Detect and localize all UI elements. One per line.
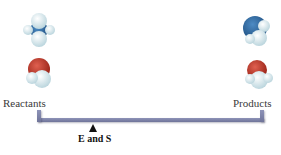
reactants-label: Reactants [3,97,46,109]
product-hydroxide-molecule-icon [242,58,274,92]
lever-bar [37,118,264,122]
reactant-water-molecule-icon [24,56,56,90]
enzyme-substrate-label: E and S [78,133,111,144]
product-ammonia-molecule-icon [240,14,274,48]
lever-left-post [37,110,41,122]
lever-right-post [260,110,264,122]
fulcrum-arrow-icon [89,124,97,132]
reactant-ammonium-molecule-icon [22,12,56,48]
products-label: Products [233,97,272,109]
